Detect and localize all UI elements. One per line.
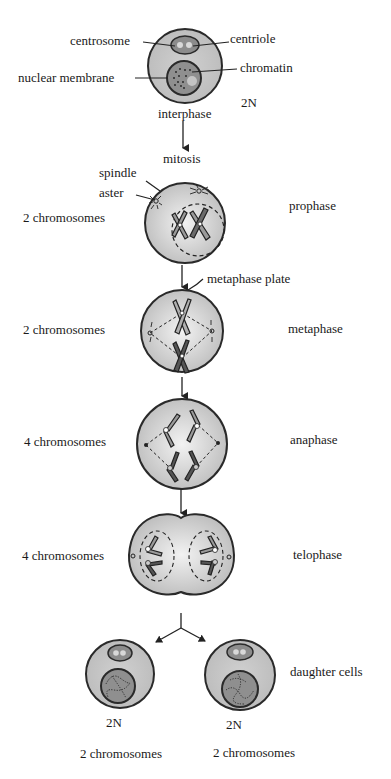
label-nuclear-membrane: nuclear membrane: [18, 71, 114, 84]
daughter-cell-1: [86, 640, 154, 708]
label-metaphase-plate: metaphase plate: [207, 272, 290, 285]
label-daughter-cells: daughter cells: [290, 665, 363, 678]
interphase-cell: [135, 29, 237, 103]
anaphase-cell: [137, 399, 227, 489]
label-mitosis: mitosis: [163, 152, 201, 165]
label-aster: aster: [99, 186, 124, 199]
centriole: [177, 42, 183, 48]
label-spindle: spindle: [99, 166, 137, 179]
label-prophase-count: 2 chromosomes: [23, 211, 105, 224]
label-metaphase: metaphase: [288, 322, 343, 335]
metaphase-cell: [141, 279, 223, 373]
prophase-cell: [136, 181, 225, 263]
label-daughter-2-ploidy: 2N: [226, 718, 242, 731]
label-prophase: prophase: [289, 199, 336, 212]
label-metaphase-count: 2 chromosomes: [23, 323, 105, 336]
daughter-cell-2: [205, 640, 275, 710]
label-telophase-count: 4 chromosomes: [22, 549, 104, 562]
label-anaphase-count: 4 chromosomes: [24, 435, 106, 448]
label-daughter-1-ploidy: 2N: [106, 716, 122, 729]
label-chromatin: chromatin: [240, 61, 293, 74]
centrosome: [171, 36, 199, 54]
label-telophase: telophase: [293, 548, 342, 561]
label-anaphase: anaphase: [290, 433, 338, 446]
label-centriole: centriole: [230, 32, 275, 45]
label-daughter-1-count: 2 chromosomes: [80, 747, 162, 760]
label-centrosome: centrosome: [70, 34, 130, 47]
telophase-cell: [129, 514, 234, 594]
label-interphase: interphase: [158, 107, 211, 120]
label-interphase-ploidy: 2N: [241, 96, 257, 109]
label-daughter-2-count: 2 chromosomes: [213, 746, 295, 759]
